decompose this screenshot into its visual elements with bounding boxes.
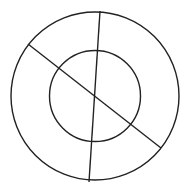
concentric-circles-diagram [0,0,186,193]
